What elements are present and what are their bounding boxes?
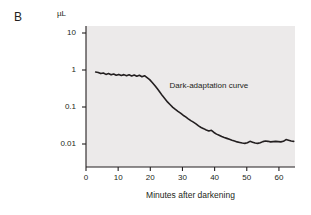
curve-annotation: Dark-adaptation curve (170, 81, 249, 90)
x-tick-label: 0 (76, 173, 96, 182)
x-tick-label: 10 (108, 173, 128, 182)
figure-panel-b: B µL 1010.10.01 0102030405060 Dark-adapt… (0, 0, 311, 215)
chart-canvas (0, 0, 311, 215)
y-tick-label: 1 (50, 65, 76, 74)
x-tick-label: 60 (269, 173, 289, 182)
y-tick-label: 0.1 (50, 102, 76, 111)
y-tick-label: 0.01 (50, 139, 76, 148)
x-tick-label: 30 (172, 173, 192, 182)
x-axis-title: Minutes after darkening (86, 190, 295, 200)
x-tick-label: 50 (237, 173, 257, 182)
y-tick-label: 10 (50, 28, 76, 37)
x-tick-label: 40 (205, 173, 225, 182)
x-tick-label: 20 (140, 173, 160, 182)
x-axis (86, 167, 295, 171)
y-axis (82, 26, 86, 167)
